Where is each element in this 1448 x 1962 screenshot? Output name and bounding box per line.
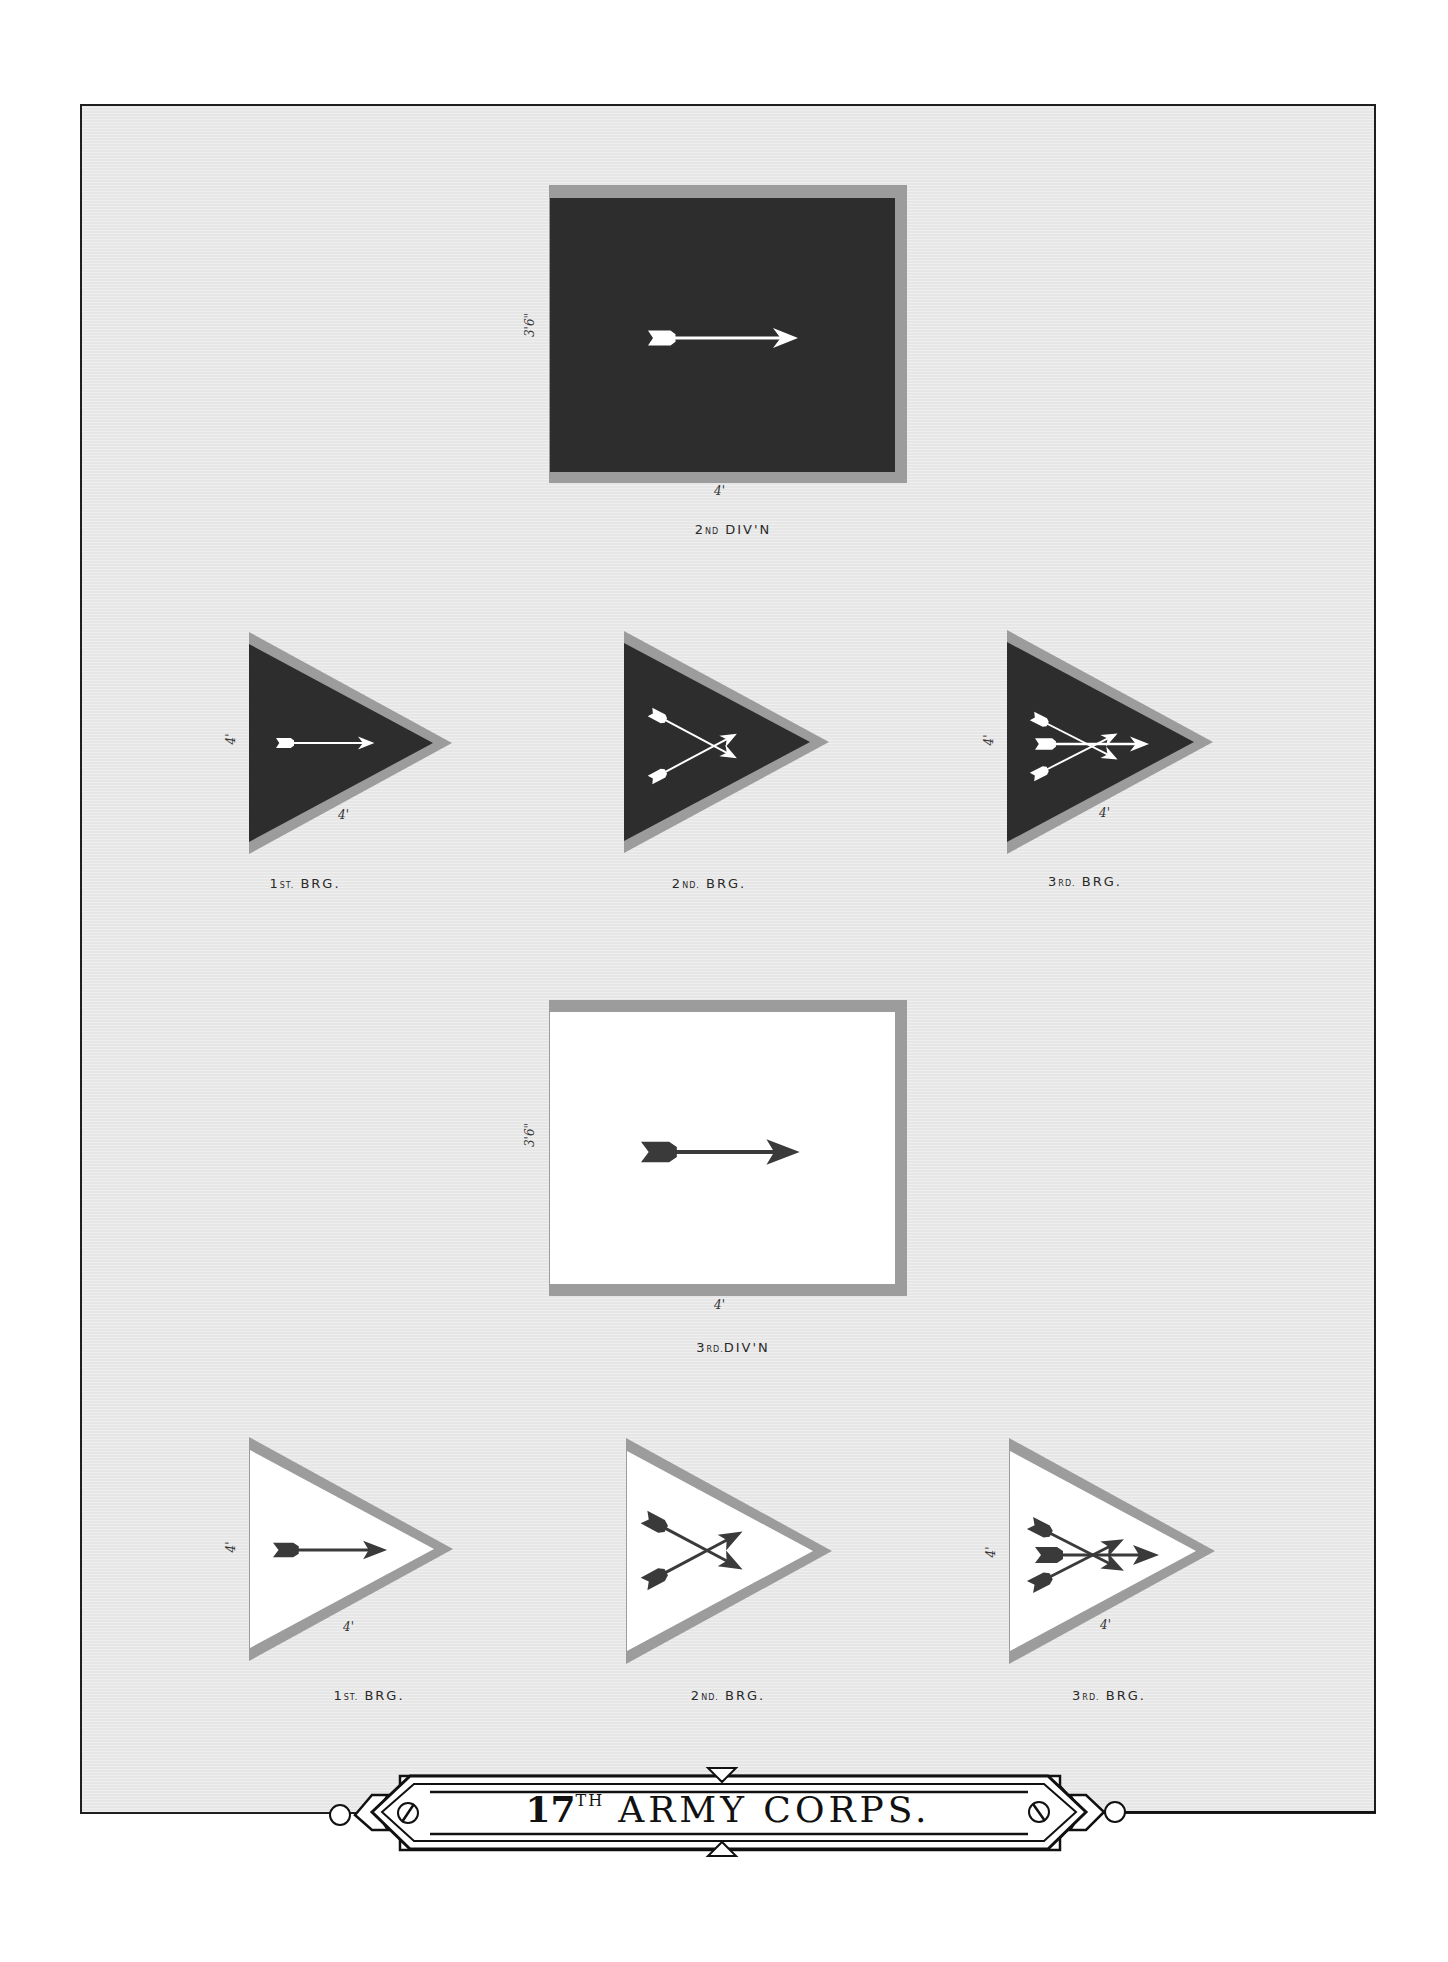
caption-2nd-div-1st-brigade: 1ST. BRG. [269, 876, 340, 891]
width-dimension: 4' [714, 1298, 725, 1312]
height-dimension: 3'6" [523, 1123, 537, 1147]
flag-3rd-div-2nd-brigade [626, 1438, 832, 1664]
height-dimension: 4' [984, 1547, 998, 1558]
caption-3rd-div-2nd-brigade: 2ND. BRG. [691, 1688, 765, 1703]
caption-2nd-division: 2ND DIV'N [695, 522, 772, 537]
flag-2nd-div-3rd-brigade [1007, 630, 1213, 854]
flag-3rd-division [549, 1000, 907, 1296]
caption-3rd-division: 3RD.DIV'N [696, 1340, 770, 1355]
width-dimension: 4' [1100, 1618, 1111, 1632]
caption-2nd-div-2nd-brigade: 2ND. BRG. [672, 876, 746, 891]
height-dimension: 3'6" [523, 313, 537, 337]
width-dimension: 4' [714, 484, 725, 498]
flag-3rd-div-3rd-brigade [1009, 1438, 1215, 1664]
caption-3rd-div-1st-brigade: 1ST. BRG. [333, 1688, 404, 1703]
flag-2nd-division [549, 185, 907, 483]
caption-3rd-div-3rd-brigade: 3RD. BRG. [1072, 1688, 1146, 1703]
width-dimension: 4' [1099, 806, 1110, 820]
height-dimension: 4' [982, 735, 996, 746]
height-dimension: 4' [224, 734, 238, 745]
flags-artwork [0, 0, 1448, 1962]
width-dimension: 4' [338, 808, 349, 822]
caption-2nd-div-3rd-brigade: 3RD. BRG. [1048, 874, 1122, 889]
width-dimension: 4' [343, 1620, 354, 1634]
flag-2nd-div-1st-brigade [249, 632, 452, 854]
flag-2nd-div-2nd-brigade [624, 631, 829, 853]
plate-title: 17THARMY CORPS. [525, 1788, 930, 1830]
height-dimension: 4' [224, 1542, 238, 1553]
